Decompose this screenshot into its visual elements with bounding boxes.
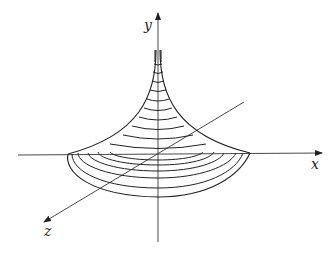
level-curves (72, 64, 243, 188)
diagram-canvas: y x z (0, 0, 336, 255)
y-axis-label: y (144, 18, 152, 32)
surface-diagram (0, 0, 336, 255)
axes (18, 13, 322, 242)
x-axis (18, 153, 322, 155)
x-axis-label: x (311, 157, 319, 171)
z-axis-label: z (44, 224, 51, 238)
surface-profile (68, 50, 250, 197)
